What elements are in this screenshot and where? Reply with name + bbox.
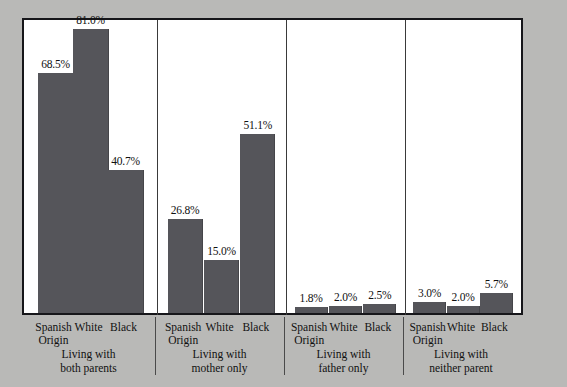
group-label-line2: mother only <box>155 361 284 375</box>
axis-label-band: SpanishOriginWhiteBlackLiving withboth p… <box>22 317 523 379</box>
figure-left-margin <box>0 18 22 315</box>
category-label-line1: Black <box>90 321 158 334</box>
bar-value-label: 51.1% <box>228 119 288 131</box>
bar <box>363 304 396 313</box>
bar <box>329 306 362 313</box>
bar <box>480 293 513 313</box>
bar <box>168 219 203 313</box>
category-label: Black <box>90 321 158 334</box>
group-label-line2: father only <box>284 361 403 375</box>
group-separator-3 <box>405 20 406 315</box>
bar <box>108 170 144 313</box>
bar <box>295 307 328 313</box>
bar <box>447 306 480 313</box>
group-label: Living withfather only <box>284 347 403 375</box>
plot-area: 68.5%81.0%40.7%26.8%15.0%51.1%1.8%2.0%2.… <box>22 18 523 315</box>
bar <box>38 73 74 313</box>
bar-value-label: 5.7% <box>466 278 526 290</box>
category-label-line2: Origin <box>275 334 343 347</box>
bar-value-label: 26.8% <box>155 204 215 216</box>
group-label-line1: Living with <box>22 347 155 361</box>
group-label: Living withboth parents <box>22 347 155 375</box>
bar-value-label: 81.0% <box>61 14 121 26</box>
chart-figure: 68.5%81.0%40.7%26.8%15.0%51.1%1.8%2.0%2.… <box>0 0 567 387</box>
category-label: Black <box>460 321 528 334</box>
bar <box>413 302 446 313</box>
group-label-line2: neither parent <box>403 361 519 375</box>
group-label: Living withmother only <box>155 347 284 375</box>
group-label-line2: both parents <box>22 361 155 375</box>
group-label-line1: Living with <box>155 347 284 361</box>
bar <box>73 29 109 313</box>
category-label-line2: Origin <box>149 334 217 347</box>
bar-value-label: 40.7% <box>96 155 156 167</box>
category-label-line2: Origin <box>394 334 462 347</box>
group-separator-2 <box>286 20 287 315</box>
group-separator-1 <box>157 20 158 315</box>
group-label-line1: Living with <box>284 347 403 361</box>
group-label-line1: Living with <box>403 347 519 361</box>
bar <box>240 134 275 313</box>
category-label-line1: Black <box>460 321 528 334</box>
bar <box>204 260 239 313</box>
figure-right-margin <box>523 18 567 315</box>
category-label-line2: Origin <box>20 334 88 347</box>
group-label: Living withneither parent <box>403 347 519 375</box>
